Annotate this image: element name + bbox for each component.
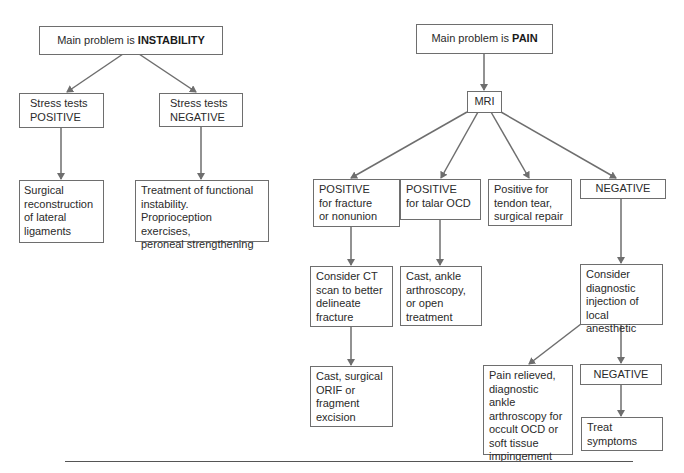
functional-treatment-node: Treatment of functional instability. Pro… <box>135 180 269 242</box>
node-line: arthroscopy, <box>406 284 476 298</box>
node-line: local anesthetic <box>586 309 657 336</box>
cast-ankle-node: Cast, ankle arthroscopy, or open treatme… <box>400 266 482 326</box>
node-line: ligaments <box>24 225 99 239</box>
node-line: Consider CT <box>316 270 387 284</box>
node-line: fracture <box>316 311 387 325</box>
node-line: Surgical <box>24 184 99 198</box>
node-line: scan to better <box>316 284 387 298</box>
node-line: Pain relieved, <box>489 369 567 383</box>
node-line: delineate <box>316 297 387 311</box>
mri-negative-label: NEGATIVE <box>596 182 651 196</box>
node-line: diagnostic ankle <box>489 383 567 410</box>
node-line: POSITIVE <box>30 111 93 125</box>
node-line: Stress tests <box>170 97 232 111</box>
positive-fracture-node: POSITIVE for fracture or nonunion <box>313 179 400 227</box>
node-line: Cast, surgical <box>316 370 387 384</box>
node-line: tendon tear, <box>494 197 566 211</box>
stress-positive-node: Stress tests POSITIVE <box>19 93 104 128</box>
node-line: injection of <box>586 295 657 309</box>
node-line: treatment <box>406 311 476 325</box>
node-line: for fracture <box>319 197 394 211</box>
injection-negative-node: NEGATIVE <box>580 364 662 385</box>
mri-label: MRI <box>474 95 494 109</box>
node-line: diagnostic <box>586 282 657 296</box>
node-line: NEGATIVE <box>170 111 232 125</box>
node-line: POSITIVE <box>319 183 394 197</box>
instability-emphasis: INSTABILITY <box>138 34 205 48</box>
pain-node: Main problem is PAIN <box>416 24 553 54</box>
consider-injection-node: Consider diagnostic injection of local a… <box>580 264 663 325</box>
node-line: Cast, ankle <box>406 270 476 284</box>
node-line: arthroscopy for <box>489 410 567 424</box>
node-line: surgical repair <box>494 210 566 224</box>
node-line: for talar OCD <box>406 197 475 211</box>
node-line: Stress tests <box>30 97 93 111</box>
positive-talar-ocd-node: POSITIVE for talar OCD <box>400 179 481 220</box>
node-line: or open <box>406 297 476 311</box>
node-line: of lateral <box>24 211 99 225</box>
node-line: instability. <box>141 198 263 212</box>
node-line: Proprioception exercises, <box>141 211 263 238</box>
mri-negative-node: NEGATIVE <box>580 179 666 199</box>
cast-surgical-node: Cast, surgical ORIF or fragment excision <box>310 366 393 427</box>
node-line: reconstruction <box>24 198 99 212</box>
mri-node: MRI <box>467 91 502 113</box>
treat-symptoms-node: Treat symptoms <box>581 417 663 451</box>
node-line: POSITIVE <box>406 183 475 197</box>
node-line: ORIF or <box>316 384 387 398</box>
node-line: Positive for <box>494 183 566 197</box>
instability-prefix: Main problem is <box>57 34 138 48</box>
bottom-divider <box>65 461 633 462</box>
pain-emphasis: PAIN <box>512 32 537 46</box>
injection-negative-label: NEGATIVE <box>594 368 649 382</box>
node-line: Treat <box>587 421 657 435</box>
node-line: peroneal strengthening <box>141 238 263 252</box>
surgical-reconstruction-node: Surgical reconstruction of lateral ligam… <box>19 180 104 243</box>
node-line: excision <box>316 411 387 425</box>
node-line: or nonunion <box>319 210 394 224</box>
node-line: occult OCD or <box>489 423 567 437</box>
tendon-tear-node: Positive for tendon tear, surgical repai… <box>488 179 572 226</box>
consider-ct-node: Consider CT scan to better delineate fra… <box>310 266 393 327</box>
node-line: symptoms <box>587 435 657 449</box>
instability-node: Main problem is INSTABILITY <box>39 26 223 55</box>
node-line: soft tissue <box>489 437 567 451</box>
pain-prefix: Main problem is <box>431 32 512 46</box>
pain-relieved-node: Pain relieved, diagnostic ankle arthrosc… <box>483 365 573 455</box>
node-line: Consider <box>586 268 657 282</box>
node-line: fragment <box>316 397 387 411</box>
node-line: Treatment of functional <box>141 184 263 198</box>
stress-negative-node: Stress tests NEGATIVE <box>159 93 243 127</box>
